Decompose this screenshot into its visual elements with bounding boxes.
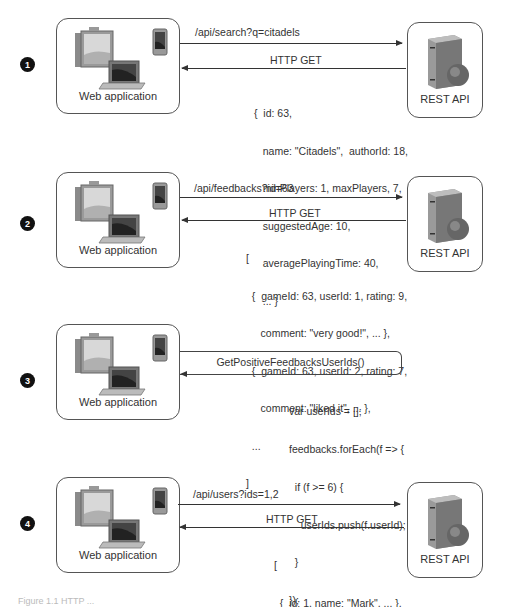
devices-icon bbox=[65, 331, 175, 397]
request-url: /api/feedbacks?id=63 bbox=[194, 182, 294, 194]
web-application-label: Web application bbox=[57, 244, 179, 256]
request-arrow bbox=[178, 504, 400, 505]
payload-line: { gameId: 63, userId: 1, rating: 9, bbox=[246, 290, 407, 303]
request-url: /api/users?ids=1,2 bbox=[193, 488, 279, 500]
return-arrow bbox=[181, 374, 187, 375]
local-call-label: GetPositiveFeedbacksUserIds() bbox=[180, 356, 401, 368]
devices-icon bbox=[65, 179, 175, 245]
code-line: if (f >= 6) { bbox=[289, 481, 406, 494]
rest-api-box: REST API bbox=[407, 22, 483, 118]
payload-line: name: "Citadels", authorId: 18, bbox=[254, 145, 408, 158]
rest-api-label: REST API bbox=[408, 553, 482, 565]
request-arrow bbox=[180, 43, 402, 44]
request-url: /api/search?q=citadels bbox=[195, 26, 300, 38]
rest-api-label: REST API bbox=[408, 247, 482, 259]
payload-line: { id: 1, name: "Mark", ... }, bbox=[274, 597, 402, 607]
response-arrow bbox=[182, 68, 406, 69]
request-arrow bbox=[180, 197, 402, 198]
server-globe-icon bbox=[424, 33, 470, 89]
response-arrow bbox=[182, 220, 406, 221]
payload-line: comment: "very good!", ... }, bbox=[246, 327, 407, 340]
step-number-badge: 3 bbox=[20, 373, 35, 388]
web-application-box: Web application bbox=[56, 477, 180, 573]
devices-icon bbox=[65, 484, 175, 550]
web-application-box: Web application bbox=[56, 324, 180, 420]
http-method-label: HTTP GET bbox=[269, 207, 321, 219]
server-globe-icon bbox=[424, 493, 470, 549]
web-application-label: Web application bbox=[57, 90, 179, 102]
web-application-label: Web application bbox=[57, 396, 179, 408]
http-method-label: HTTP GET bbox=[270, 54, 322, 66]
response-arrow bbox=[180, 527, 404, 528]
http-method-label: HTTP GET bbox=[266, 513, 318, 525]
web-application-box: Web application bbox=[56, 172, 180, 268]
code-line: var userIds = []; bbox=[289, 405, 406, 418]
step-number-badge: 1 bbox=[20, 57, 35, 72]
payload-line: [ bbox=[246, 252, 407, 265]
devices-icon bbox=[65, 25, 175, 91]
response-payload: [ { id: 1, name: "Mark", ... }, { id: 2,… bbox=[274, 534, 402, 607]
server-globe-icon bbox=[424, 187, 470, 243]
local-call-loop: GetPositiveFeedbacksUserIds() bbox=[180, 351, 402, 375]
web-application-label: Web application bbox=[57, 549, 179, 561]
payload-line: [ bbox=[274, 559, 402, 572]
figure-caption: Figure 1.1 HTTP ... bbox=[18, 596, 94, 606]
rest-api-box: REST API bbox=[407, 176, 483, 272]
code-line: feedbacks.forEach(f => { bbox=[289, 443, 406, 456]
rest-api-label: REST API bbox=[408, 93, 482, 105]
step-number-badge: 4 bbox=[20, 516, 35, 531]
rest-api-box: REST API bbox=[407, 482, 483, 578]
step-number-badge: 2 bbox=[20, 216, 35, 231]
web-application-box: Web application bbox=[56, 18, 180, 114]
payload-line: { id: 63, bbox=[254, 107, 408, 120]
